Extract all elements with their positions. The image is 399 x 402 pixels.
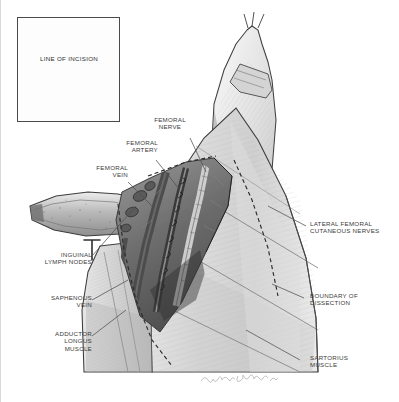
label-lateral-femoral-cutaneous-nerves: LATERAL FEMORAL CUTANEOUS NERVES bbox=[310, 220, 396, 235]
label-saphenous-vein: SAPHENOUS VEIN bbox=[26, 294, 92, 309]
illustration-page: LINE OF INCISION FEMORAL NERVE FEMORAL A… bbox=[0, 0, 399, 402]
label-adductor-longus-muscle: ADDUCTOR LONGUS MUSCLE bbox=[26, 330, 92, 352]
label-inguinal-lymph-nodes: INGUINAL LYMPH NODES bbox=[24, 251, 92, 266]
artist-signature bbox=[198, 372, 288, 384]
label-sartorius-muscle: SARTORIUS MUSCLE bbox=[310, 354, 390, 369]
label-femoral-nerve: FEMORAL NERVE bbox=[142, 116, 198, 131]
inset-caption: LINE OF INCISION bbox=[24, 55, 114, 62]
label-femoral-vein: FEMORAL VEIN bbox=[66, 164, 128, 179]
label-femoral-artery: FEMORAL ARTERY bbox=[96, 139, 158, 154]
label-boundary-of-dissection: BOUNDARY OF DISSECTION bbox=[310, 292, 394, 307]
inset-frame bbox=[17, 17, 120, 122]
